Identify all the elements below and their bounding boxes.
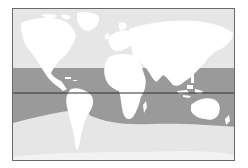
map-canvas [13, 9, 235, 161]
world-map [12, 8, 235, 161]
